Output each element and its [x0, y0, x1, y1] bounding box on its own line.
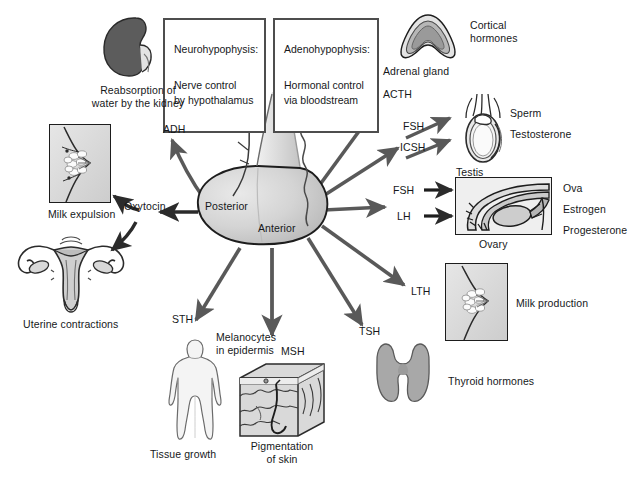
acth-label: ACTH	[383, 88, 412, 101]
uterus-illustration	[6, 236, 136, 316]
cortical-hormones-label: Cortical hormones	[470, 19, 518, 45]
anterior-lobe-label: Anterior	[258, 222, 296, 235]
kidney-caption: Reabsorption of water by the kidney	[84, 84, 192, 110]
skin-block-illustration	[236, 362, 328, 438]
posterior-lobe-label: Posterior	[205, 200, 248, 213]
testosterone-label: Testosterone	[510, 128, 571, 141]
fsh-testis-label: FSH	[403, 120, 424, 133]
breast-milk-expulsion-panel	[49, 124, 111, 203]
icsh-label: ICSH	[400, 141, 426, 154]
uterine-contractions-label: Uterine contractions	[23, 318, 118, 331]
sperm-label: Sperm	[510, 107, 541, 120]
milk-production-label: Milk production	[516, 297, 588, 310]
msh-label: MSH	[281, 345, 305, 358]
adrenal-gland-label: Adrenal gland	[383, 65, 449, 78]
tissue-growth-label: Tissue growth	[150, 448, 216, 461]
neurohypophysis-heading: Neurohypophysis:	[174, 42, 255, 57]
progesterone-label: Progesterone	[563, 224, 627, 237]
ova-label: Ova	[563, 182, 583, 195]
diagram-canvas: Posterior Anterior Neurohypophysis: Nerv…	[0, 0, 633, 477]
adenohypophysis-box: Adenohypophysis: Hormonal control via bl…	[273, 18, 379, 133]
pigmentation-label: Pigmentation of skin	[232, 440, 332, 466]
adenohypophysis-heading: Adenohypophysis:	[284, 42, 368, 57]
breast-milk-production-panel	[445, 263, 508, 341]
neurohypophysis-box: Neurohypophysis: Nerve control by hypoth…	[163, 18, 266, 133]
thyroid-hormones-label: Thyroid hormones	[448, 375, 534, 388]
fsh-ovary-label: FSH	[393, 184, 414, 197]
sth-label: STH	[172, 313, 193, 326]
thyroid-illustration	[372, 340, 434, 406]
estrogen-label: Estrogen	[563, 203, 606, 216]
ovary-panel	[455, 177, 552, 235]
lth-label: LTH	[411, 285, 430, 298]
ovary-label: Ovary	[479, 238, 508, 251]
kidney-illustration	[96, 14, 170, 80]
adh-label: ADH	[163, 123, 185, 136]
adenohypophysis-body: Hormonal control via bloodstream	[284, 78, 368, 108]
oxytocin-label: Oxytocin	[124, 200, 166, 213]
human-body-illustration	[158, 338, 232, 442]
lh-label: LH	[397, 210, 411, 223]
adrenal-gland-illustration	[397, 12, 459, 62]
testis-illustration	[455, 92, 513, 166]
tsh-label: TSH	[359, 325, 380, 338]
milk-expulsion-label: Milk expulsion	[48, 208, 115, 221]
